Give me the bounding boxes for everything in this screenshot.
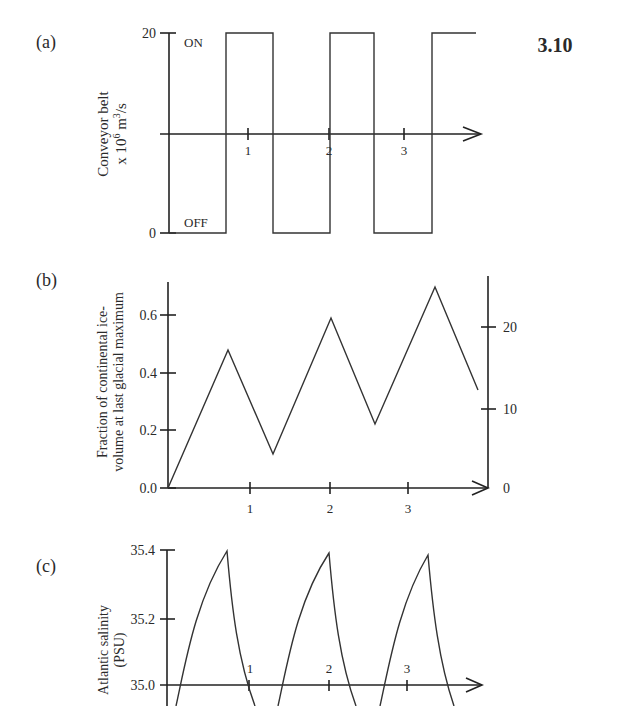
y-tick-label-0.4: 0.4 [140, 366, 158, 381]
conveyor-belt-square-wave [169, 33, 476, 233]
x-tick-label-2-b: 2 [327, 501, 334, 516]
y-tick-label-0.6: 0.6 [140, 308, 158, 323]
panel-label-a: (a) [36, 32, 56, 53]
y-axis-label-a: Conveyor belt x 106 m3/s [95, 90, 129, 176]
y-label-c-line-2: (PSU) [112, 632, 128, 667]
salinity-cycle-1 [176, 551, 255, 706]
y-tick-label-0.0: 0.0 [140, 481, 158, 496]
y-label-b-line-1: Fraction of continental ice- [95, 306, 110, 458]
x-tick-label-3-a: 3 [401, 143, 408, 158]
x-tick-label-1-a: 1 [245, 143, 252, 158]
y-tick-label-35.0: 35.0 [131, 678, 156, 693]
panel-label-c: (c) [36, 556, 56, 577]
figure-number: 3.10 [538, 34, 573, 56]
x-tick-label-2-c: 2 [326, 661, 333, 676]
x-tick-label-3-b: 3 [405, 501, 412, 516]
y-tick-label-0.2: 0.2 [140, 423, 158, 438]
panel-label-b: (b) [36, 270, 57, 291]
x-tick-label-2-a: 2 [326, 143, 333, 158]
salinity-cycle-3 [380, 555, 454, 706]
y-tick-right-label-0: 0 [503, 481, 510, 496]
y-tick-label-20: 20 [142, 26, 156, 41]
y-label-b-line-2: volume at last glacial maximum [111, 292, 126, 472]
y-axis-label-c: Atlantic salinity (PSU) [96, 605, 128, 695]
y-axis-label-b: Fraction of continental ice- volume at l… [95, 292, 126, 472]
panel-a: (a) Conveyor belt x 106 m3/s 20 0 1 2 3 … [36, 26, 481, 241]
x-tick-label-1-c: 1 [247, 661, 254, 676]
x-tick-label-1-b: 1 [247, 501, 254, 516]
panel-b: (b) Fraction of continental ice- volume … [36, 270, 517, 516]
off-state-label: OFF [184, 215, 208, 230]
on-state-label: ON [184, 35, 203, 50]
y-tick-label-35.2: 35.2 [131, 612, 156, 627]
y-tick-label-35.4: 35.4 [131, 543, 156, 558]
y-tick-right-label-10: 10 [503, 402, 517, 417]
x-tick-label-3-c: 3 [404, 661, 411, 676]
figure-canvas: 3.10 (a) Conveyor belt x 106 m3/s 20 0 1… [0, 0, 641, 706]
y-tick-right-label-20: 20 [503, 320, 517, 335]
panel-c: (c) Atlantic salinity (PSU) 35.4 35.2 35… [36, 543, 482, 706]
ice-volume-sawtooth [168, 287, 478, 488]
y-label-line-2: x 106 m3/s [111, 103, 129, 165]
y-label-line-1: Conveyor belt [95, 90, 111, 176]
y-label-c-line-1: Atlantic salinity [96, 605, 111, 695]
salinity-cycle-2 [278, 553, 356, 706]
y-tick-label-0: 0 [149, 226, 156, 241]
